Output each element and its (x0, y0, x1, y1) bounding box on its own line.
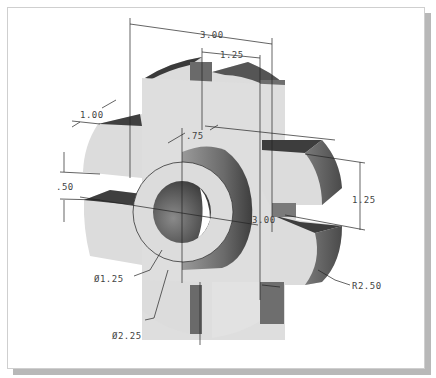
dim-hub-diameter: Ø2.25 (112, 331, 142, 341)
right-lobe-upper (262, 140, 342, 205)
dim-lobe-thickness: 1.00 (80, 110, 104, 120)
dim-slot-width: .50 (56, 182, 74, 192)
dim-center-width: 3.00 (252, 215, 276, 225)
left-lobe-upper (83, 114, 142, 178)
dim-slot-spacing: 1.25 (220, 50, 244, 60)
dim-outer-radius: R2.50 (352, 281, 382, 291)
dim-right-slot-spacing: 1.25 (352, 195, 376, 205)
right-lobe-lower (270, 203, 342, 285)
dim-hub-offset: .75 (186, 131, 204, 141)
part-drawing: 3.00 1.25 1.00 .75 .50 1.25 3.00 Ø1.25 R… (0, 0, 436, 378)
dim-overall-width: 3.00 (200, 30, 224, 40)
left-lobe-lower (84, 190, 142, 265)
dim-bore-diameter: Ø1.25 (94, 274, 124, 284)
